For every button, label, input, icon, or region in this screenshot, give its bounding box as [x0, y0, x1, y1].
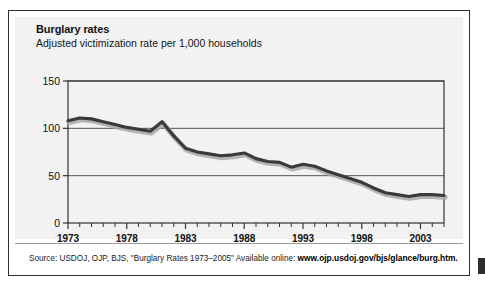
page-edge-mark	[478, 258, 485, 274]
x-axis-minor-ticks	[68, 223, 444, 229]
y-tick-label-50: 50	[48, 170, 60, 182]
y-axis-tick-marks	[63, 81, 68, 223]
y-axis-tick-labels: 050100150	[42, 75, 60, 229]
plot-border	[68, 81, 444, 223]
y-tick-label-150: 150	[42, 75, 60, 87]
plot-area: 050100150 1973197819831988199319982003	[9, 11, 471, 249]
source-url-link[interactable]: www.ojp.usdoj.gov/bjs/glance/burg.htm.	[298, 253, 458, 263]
plot-frame	[68, 81, 444, 223]
footer-divider	[15, 243, 463, 244]
source-note: Source: USDOJ, OJP, BJS, "Burglary Rates…	[29, 253, 459, 264]
burglary-rates-line-chart: 050100150 1973197819831988199319982003	[9, 11, 471, 249]
y-tick-label-100: 100	[42, 122, 60, 134]
y-tick-label-0: 0	[54, 217, 60, 229]
figure-frame: Burglary rates Adjusted victimization ra…	[8, 10, 470, 276]
data-series-line	[68, 118, 445, 198]
source-prefix-text: Source: USDOJ, OJP, BJS, "Burglary Rates…	[29, 254, 298, 263]
